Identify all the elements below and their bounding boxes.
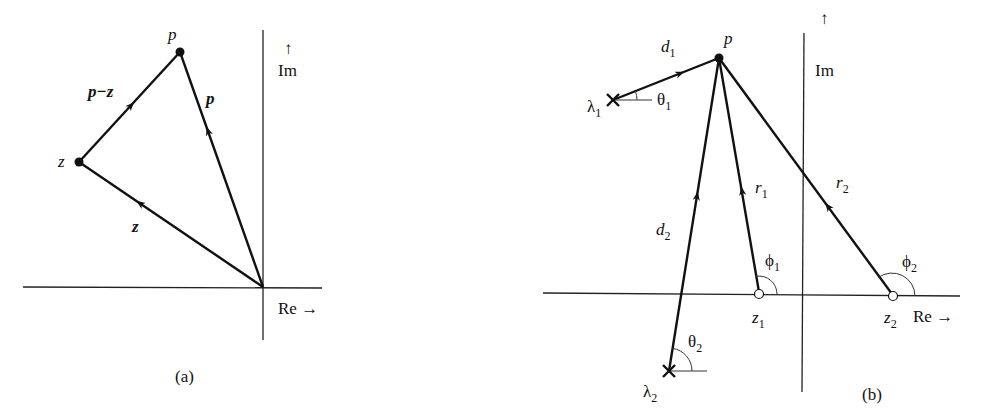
theta2-arc — [673, 348, 692, 371]
point-p-dot — [176, 48, 185, 57]
label-re-axis: Re → — [913, 307, 953, 326]
label-d2: d2 — [656, 220, 671, 243]
vector-p — [180, 52, 263, 287]
vector-d2 — [669, 58, 719, 371]
label-point-z: z — [57, 152, 65, 171]
caption-b: (b) — [862, 385, 882, 404]
vector-r1 — [719, 58, 759, 292]
real-axis — [23, 287, 322, 288]
label-phi2: ϕ2 — [902, 252, 917, 275]
label-theta2: θ2 — [688, 332, 702, 355]
theta1-arc — [635, 91, 637, 100]
label-r2: r2 — [836, 173, 849, 196]
vector-z — [79, 162, 263, 287]
label-phi1: ϕ1 — [765, 251, 780, 274]
label-point-p: p — [167, 25, 177, 44]
label-im-axis: Im — [815, 61, 834, 80]
zero-1-circle-icon — [755, 290, 764, 299]
vector-d1 — [613, 58, 719, 100]
label-lambda1: λ1 — [587, 97, 601, 120]
vector-p-minus-z — [79, 52, 180, 162]
label-vector-z: z — [131, 217, 139, 236]
label-z1: z1 — [751, 308, 765, 331]
diagram-canvas: p z p−z p z ↑ Im Re → (a) — [0, 0, 984, 420]
caption-a: (a) — [175, 367, 194, 386]
imaginary-axis — [802, 33, 804, 392]
label-vector-p-minus-z: p−z — [86, 82, 114, 101]
label-im-axis: Im — [278, 61, 297, 80]
label-r1: r1 — [755, 178, 768, 201]
label-vector-p: p — [204, 89, 215, 108]
label-d1: d1 — [661, 37, 676, 60]
label-point-p: p — [723, 29, 733, 48]
panel-a: p z p−z p z ↑ Im Re → (a) — [23, 25, 322, 386]
panel-b: p d1 d2 r1 r2 λ1 λ2 θ1 θ2 ϕ1 ϕ2 z1 z2 ↑ … — [543, 9, 960, 405]
im-arrow-icon: ↑ — [820, 9, 829, 28]
label-theta1: θ1 — [657, 90, 671, 113]
label-lambda2: λ2 — [643, 382, 657, 405]
label-re-axis: Re → — [278, 299, 318, 318]
vector-r2 — [719, 58, 892, 294]
point-p-dot — [715, 54, 724, 63]
point-z-dot — [75, 158, 84, 167]
label-z2: z2 — [883, 308, 897, 331]
im-arrow-icon: ↑ — [284, 39, 293, 58]
zero-2-circle-icon — [889, 292, 898, 301]
